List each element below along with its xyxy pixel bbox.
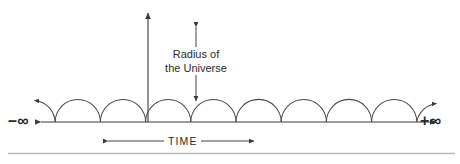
oscillating-universe-diagram: –∞ +∞ Radius of the Universe TIME xyxy=(0,0,460,164)
diagram-canvas xyxy=(0,0,460,164)
radius-label-line-1: Radius of xyxy=(150,47,242,61)
positive-infinity-label: +∞ xyxy=(420,112,441,131)
radius-label-line-2: the Universe xyxy=(150,61,242,75)
radius-of-universe-label: Radius of the Universe xyxy=(150,47,242,75)
universe-cycle-arcs xyxy=(55,99,417,122)
time-label: TIME xyxy=(164,135,201,147)
negative-infinity-label: –∞ xyxy=(8,112,29,131)
left-continuation-arc xyxy=(35,101,56,123)
